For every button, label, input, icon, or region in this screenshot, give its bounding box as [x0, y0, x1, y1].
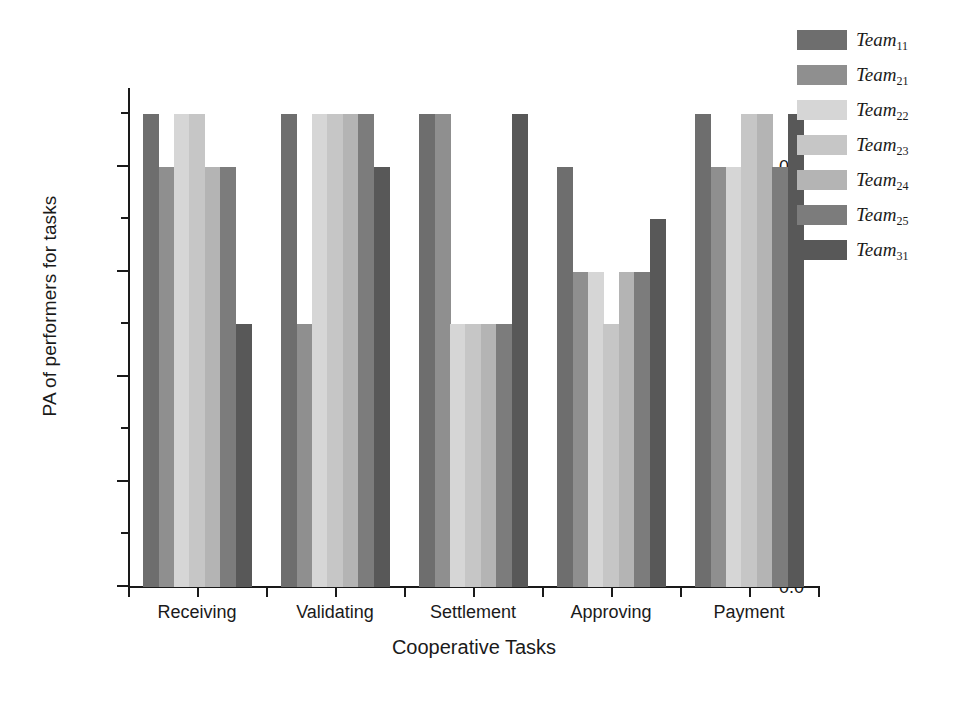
legend-item[interactable]: Team22 — [797, 92, 947, 127]
x-axis-tick-label: Validating — [296, 602, 374, 623]
x-axis-tick-label: Settlement — [430, 602, 516, 623]
bar — [143, 114, 159, 587]
y-axis-major-tick — [117, 270, 128, 272]
bar — [695, 114, 711, 587]
legend-swatch — [797, 65, 847, 85]
y-axis-minor-tick — [121, 112, 128, 114]
bar-chart-figure: PA of performers for tasks 0.00.20.40.60… — [0, 0, 960, 702]
legend-item[interactable]: Team21 — [797, 57, 947, 92]
bar — [496, 324, 512, 587]
legend-item[interactable]: Team24 — [797, 162, 947, 197]
bar — [312, 114, 328, 587]
x-axis-tick — [611, 587, 613, 597]
bar — [757, 114, 773, 587]
bar — [772, 167, 788, 587]
bar — [419, 114, 435, 587]
bar — [711, 167, 727, 587]
bar — [435, 114, 451, 587]
y-axis-major-tick — [117, 375, 128, 377]
bar — [726, 167, 742, 587]
legend-item[interactable]: Team31 — [797, 232, 947, 267]
x-axis-title: Cooperative Tasks — [128, 636, 820, 659]
bar — [603, 324, 619, 587]
legend-item[interactable]: Team25 — [797, 197, 947, 232]
x-axis-tick — [542, 587, 544, 597]
bar — [297, 324, 313, 587]
bar — [174, 114, 190, 587]
bar — [327, 114, 343, 587]
x-axis-tick — [404, 587, 406, 597]
y-axis-major-tick — [117, 165, 128, 167]
legend-swatch — [797, 135, 847, 155]
bar — [236, 324, 252, 587]
x-axis-tick — [197, 587, 199, 597]
bar — [741, 114, 757, 587]
plot-area: 0.00.20.40.60.8 ReceivingValidatingSettl… — [128, 88, 818, 587]
legend-label: Team11 — [856, 29, 908, 51]
legend-label: Team31 — [856, 239, 908, 261]
x-axis-tick-label: Receiving — [157, 602, 236, 623]
bar — [159, 167, 175, 587]
bar — [189, 114, 205, 587]
legend-label: Team23 — [856, 134, 908, 156]
y-axis-major-tick — [117, 585, 128, 587]
legend-label: Team24 — [856, 169, 908, 191]
x-axis-tick — [818, 587, 820, 597]
y-axis-title: PA of performers for tasks — [39, 106, 61, 506]
x-axis-tick-label: Approving — [570, 602, 651, 623]
bar — [358, 114, 374, 587]
legend-swatch — [797, 170, 847, 190]
chart-legend: Team11Team21Team22Team23Team24Team25Team… — [797, 22, 947, 267]
y-axis-minor-tick — [121, 532, 128, 534]
y-axis-minor-tick — [121, 427, 128, 429]
legend-swatch — [797, 30, 847, 50]
bar — [465, 324, 481, 587]
legend-item[interactable]: Team23 — [797, 127, 947, 162]
bar — [205, 167, 221, 587]
bar — [650, 219, 666, 587]
y-axis-minor-tick — [121, 217, 128, 219]
legend-swatch — [797, 240, 847, 260]
x-axis-tick — [266, 587, 268, 597]
x-axis-tick-label: Payment — [713, 602, 784, 623]
x-axis-tick — [128, 587, 130, 597]
legend-swatch — [797, 205, 847, 225]
legend-label: Team22 — [856, 99, 908, 121]
x-axis-tick — [473, 587, 475, 597]
bar — [634, 272, 650, 587]
x-axis-tick — [680, 587, 682, 597]
bar — [557, 167, 573, 587]
legend-label: Team21 — [856, 64, 908, 86]
legend-swatch — [797, 100, 847, 120]
x-axis-tick — [335, 587, 337, 597]
bar — [512, 114, 528, 587]
y-axis-minor-tick — [121, 322, 128, 324]
bar — [450, 324, 466, 587]
bar — [343, 114, 359, 587]
bar — [374, 167, 390, 587]
bar — [619, 272, 635, 587]
legend-label: Team25 — [856, 204, 908, 226]
x-axis-tick — [749, 587, 751, 597]
bar — [481, 324, 497, 587]
bar — [281, 114, 297, 587]
bar — [588, 272, 604, 587]
legend-item[interactable]: Team11 — [797, 22, 947, 57]
bar — [573, 272, 589, 587]
bar — [220, 167, 236, 587]
y-axis-major-tick — [117, 480, 128, 482]
